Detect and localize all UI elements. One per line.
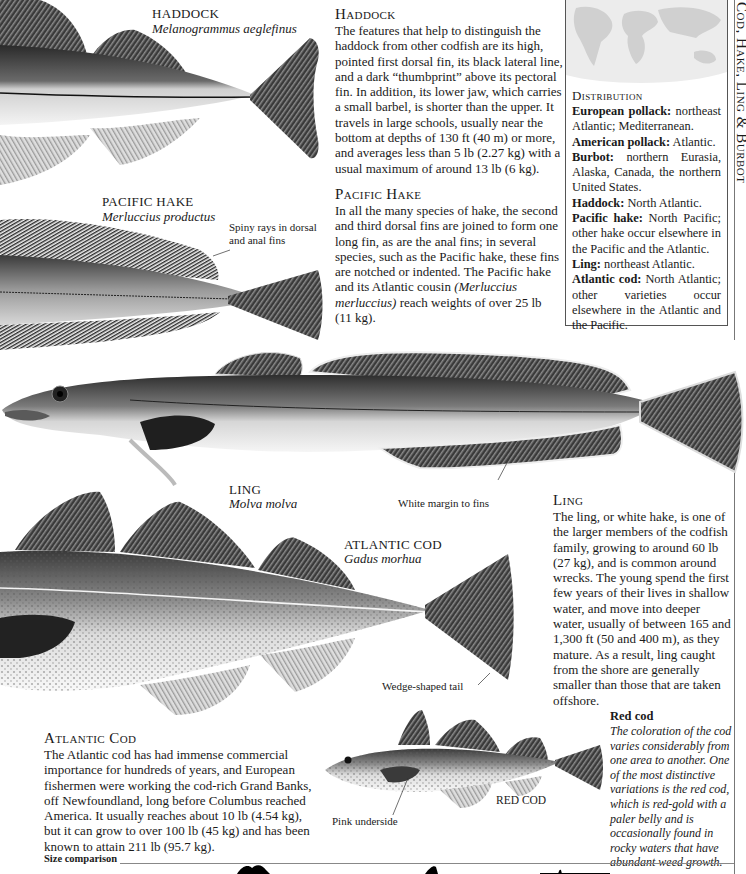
atlantic-cod-callout: Wedge-shaped tail	[382, 680, 463, 693]
haddock-latin-name: Melanogrammus aeglefinus	[152, 21, 297, 36]
distribution-box: Distribution European pollack: northeast…	[565, 0, 728, 326]
ling-section: Ling The ling, or white hake, is one of …	[553, 492, 733, 708]
pacific-hake-callout: Spiny rays in dorsal and anal fins	[229, 221, 329, 247]
distribution-list: European pollack: northeast Atlantic; Me…	[572, 104, 721, 333]
ling-heading: Ling	[553, 492, 733, 509]
pacific-hake-body: In all the many species of hake, the sec…	[335, 203, 560, 325]
haddock-body: The features that help to distinguish th…	[335, 23, 567, 176]
spine-rule	[734, 0, 735, 340]
haddock-common-name: HADDOCK	[152, 6, 219, 21]
ling-illustration	[0, 350, 746, 490]
spine-title: Cod, Hake, Ling & Burbot	[736, 0, 746, 340]
atlantic-cod-illustration	[0, 490, 540, 730]
atlantic-cod-heading: Atlantic Cod	[44, 730, 314, 747]
size-comparison-label: Size comparison	[44, 853, 120, 864]
ling-body: The ling, or white hake, is one of the l…	[553, 509, 733, 708]
distribution-entry: Pacific hake: North Pacific; other hake …	[572, 211, 721, 256]
atlantic-cod-body: The Atlantic cod has had immense commerc…	[44, 747, 314, 854]
distribution-entry: Ling: northeast Atlantic.	[572, 257, 695, 271]
red-cod-note-body: The coloration of the cod varies conside…	[610, 724, 734, 870]
red-cod-illustration	[310, 700, 605, 815]
haddock-heading: Haddock	[335, 6, 567, 23]
fish-silhouette-icon	[425, 866, 438, 874]
atlantic-cod-latin-name: Gadus morhua	[344, 551, 421, 566]
pacific-hake-latin-name: Merluccius productus	[102, 209, 215, 224]
atlantic-cod-section: Atlantic Cod The Atlantic cod has had im…	[44, 730, 314, 854]
world-map-icon	[566, 0, 727, 84]
red-cod-callout: Pink underside	[332, 815, 398, 828]
red-cod-note-heading: Red cod	[610, 709, 734, 724]
size-comparison-row: Size comparison	[44, 853, 734, 864]
distribution-entry: European pollack: northeast Atlantic; Me…	[572, 104, 721, 133]
distribution-entry: Burbot: northern Eurasia, Alaska, Canada…	[572, 150, 721, 195]
red-cod-note: Red cod The coloration of the cod varies…	[610, 709, 734, 870]
size-comparison-rule	[120, 854, 734, 864]
atlantic-cod-common-name: ATLANTIC COD	[344, 537, 442, 552]
pacific-hake-heading: Pacific Hake	[335, 186, 560, 203]
pacific-hake-section: Pacific Hake In all the many species of …	[335, 186, 560, 325]
pacific-hake-common-name: PACIFIC HAKE	[102, 194, 194, 209]
distribution-entry: Atlantic cod: North Atlantic; other vari…	[572, 272, 721, 332]
haddock-section: Haddock The features that help to distin…	[335, 6, 567, 176]
size-comparison-silhouettes	[0, 864, 746, 874]
fish-silhouette-icon	[237, 865, 270, 874]
distribution-entry: American pollack: Atlantic.	[572, 135, 716, 149]
distribution-heading: Distribution	[572, 88, 721, 104]
red-cod-common-name: RED COD	[496, 794, 546, 807]
distribution-entry: Haddock: North Atlantic.	[572, 196, 702, 210]
